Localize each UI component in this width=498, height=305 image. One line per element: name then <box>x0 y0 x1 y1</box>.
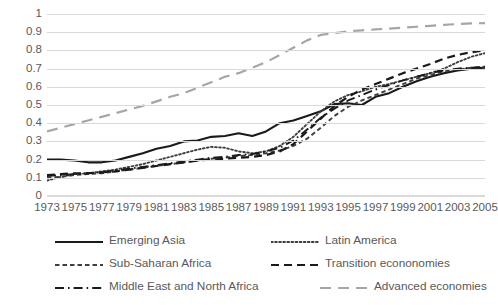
y-axis-tick-label: 0.4 <box>26 117 42 129</box>
gridline <box>47 141 485 142</box>
y-axis-tick-label: 0.1 <box>26 172 42 184</box>
y-axis-tick-label: 0.6 <box>26 81 42 93</box>
legend-swatch-middle-east-and-north-africa <box>55 280 103 292</box>
x-axis-tick-label: 1993 <box>308 201 334 214</box>
x-axis-tick-label: 1981 <box>144 201 170 214</box>
legend-label: Middle East and North Africa <box>109 280 259 292</box>
legend-swatch-advanced-economies <box>320 280 368 292</box>
legend-swatch-latin-america <box>271 234 319 246</box>
legend-row: Emerging AsiaLatin America <box>55 229 485 251</box>
x-axis-tick-label: 2005 <box>472 201 498 214</box>
gridline <box>47 160 485 161</box>
plot-area <box>47 14 485 196</box>
x-axis-tick-label: 1983 <box>171 201 197 214</box>
legend-label: Emerging Asia <box>109 234 185 246</box>
y-axis-tick-label: 0.9 <box>26 26 42 38</box>
x-axis-tick-label: 1999 <box>390 201 416 214</box>
x-axis-tick-label: 1977 <box>89 201 115 214</box>
x-axis-tick-label: 1989 <box>253 201 279 214</box>
chart-legend: Emerging AsiaLatin AmericaSub-Saharan Af… <box>55 229 485 301</box>
legend-swatch-emerging-asia <box>55 234 103 246</box>
x-axis-line <box>47 195 485 196</box>
gridline <box>47 123 485 124</box>
x-axis-tick-label: 1997 <box>363 201 389 214</box>
series-line-emerging-asia <box>47 68 485 163</box>
gridline <box>47 178 485 179</box>
x-axis-tick-labels: 1973197519771979198119831985198719891991… <box>47 199 485 219</box>
gridline <box>47 69 485 70</box>
legend-item-middle-east-and-north-africa[interactable]: Middle East and North Africa <box>55 275 259 297</box>
legend-swatch-sub-saharan-africa <box>55 257 103 269</box>
y-axis-tick-label: 0.8 <box>26 45 42 57</box>
legend-label: Latin America <box>325 234 396 246</box>
y-axis-tick-label: 1 <box>36 8 42 20</box>
legend-row: Sub-Saharan AfricaTransition econonomies <box>55 252 485 274</box>
legend-item-emerging-asia[interactable]: Emerging Asia <box>55 229 185 251</box>
x-axis-tick-label: 1987 <box>226 201 252 214</box>
x-axis-tick-label: 1995 <box>335 201 361 214</box>
x-axis-tick-label: 1973 <box>34 201 60 214</box>
x-axis-tick-label: 1985 <box>198 201 224 214</box>
legend-item-latin-america[interactable]: Latin America <box>271 229 396 251</box>
gridline <box>47 87 485 88</box>
legend-label: Advanced economies <box>374 280 487 292</box>
legend-label: Transition econonomies <box>325 257 450 269</box>
y-axis-tick-labels: 10.90.80.70.60.50.40.30.20.10 <box>0 0 42 205</box>
gridline <box>47 32 485 33</box>
x-axis-tick-label: 1991 <box>281 201 307 214</box>
x-axis-tick-label: 1979 <box>116 201 142 214</box>
x-axis-tick-label: 2003 <box>445 201 471 214</box>
y-axis-tick-label: 0.3 <box>26 136 42 148</box>
gridline <box>47 105 485 106</box>
y-axis-tick-label: 0.2 <box>26 154 42 166</box>
gridline <box>47 14 485 15</box>
gridline <box>47 50 485 51</box>
x-axis-tick-label: 2001 <box>417 201 443 214</box>
legend-item-transition-econonomies[interactable]: Transition econonomies <box>271 252 450 274</box>
legend-item-sub-saharan-africa[interactable]: Sub-Saharan Africa <box>55 252 211 274</box>
legend-item-advanced-economies[interactable]: Advanced economies <box>320 275 487 297</box>
legend-label: Sub-Saharan Africa <box>109 257 211 269</box>
gridline <box>47 196 485 197</box>
y-axis-tick-label: 0.5 <box>26 99 42 111</box>
y-axis-tick-label: 0.7 <box>26 63 42 75</box>
x-axis-tick-label: 1975 <box>62 201 88 214</box>
legend-swatch-transition-econonomies <box>271 257 319 269</box>
legend-row: Middle East and North AfricaAdvanced eco… <box>55 275 485 297</box>
